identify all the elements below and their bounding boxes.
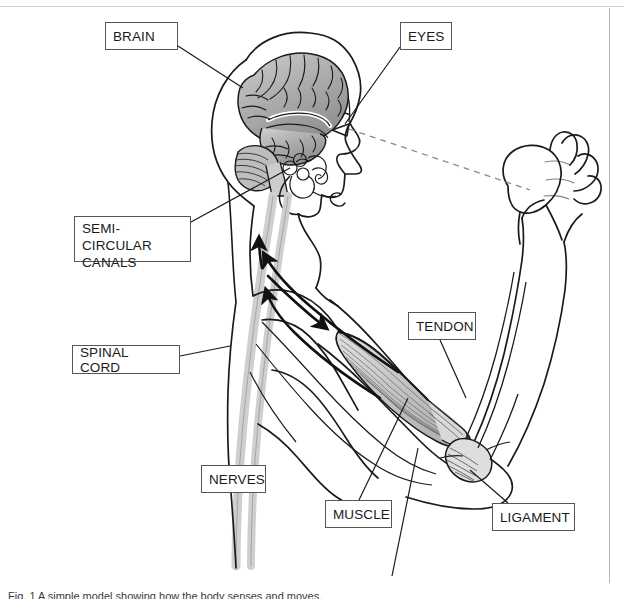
leader-line-muscle-2 xyxy=(392,448,418,576)
label-nerves[interactable]: NERVES xyxy=(201,465,266,493)
label-tendon[interactable]: TENDON xyxy=(408,312,476,340)
label-spinal-cord[interactable]: SPINAL CORD xyxy=(72,345,180,374)
leader-line-muscle xyxy=(359,398,408,500)
label-muscle[interactable]: MUSCLE xyxy=(325,500,392,528)
figure-canvas: BRAIN EYES SEMI-CIRCULAR CANALS SPINAL C… xyxy=(0,0,624,599)
label-brain-text: BRAIN xyxy=(113,29,155,44)
label-brain[interactable]: BRAIN xyxy=(105,22,178,50)
fist xyxy=(503,132,601,244)
label-tendon-text: TENDON xyxy=(416,319,474,334)
leader-line-brain xyxy=(178,46,243,88)
label-semi-circular-canals-text: SEMI-CIRCULAR CANALS xyxy=(82,220,183,271)
label-ligament-text: LIGAMENT xyxy=(500,510,570,525)
leader-line-tendon xyxy=(440,340,466,398)
label-eyes[interactable]: EYES xyxy=(400,22,452,50)
spinal-cord xyxy=(236,196,288,566)
figure-caption: Fig. 1 A simple model showing how the bo… xyxy=(8,590,608,599)
label-spinal-cord-text: SPINAL CORD xyxy=(80,345,172,375)
sight-line xyxy=(349,129,530,190)
label-nerves-text: NERVES xyxy=(209,472,265,487)
label-eyes-text: EYES xyxy=(408,29,444,44)
ligament xyxy=(440,439,510,482)
forearm-bone-lines xyxy=(466,272,526,460)
label-semi-circular-canals[interactable]: SEMI-CIRCULAR CANALS xyxy=(74,216,191,262)
label-muscle-text: MUSCLE xyxy=(333,507,390,522)
label-ligament[interactable]: LIGAMENT xyxy=(492,503,575,531)
leader-line-spinal-cord xyxy=(180,346,230,356)
